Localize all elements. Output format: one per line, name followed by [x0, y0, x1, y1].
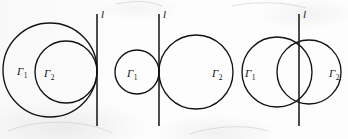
label-gamma-1-panel-2: Γ1: [127, 68, 137, 82]
label-gamma-2-panel-3: Γ2: [329, 68, 339, 82]
label-gamma-1-panel-1: Γ1: [17, 66, 27, 80]
geometry-figure: Γ1 Γ2 l Γ1 Γ2 l Γ1 Γ2 l: [0, 0, 348, 139]
panel-intersecting: [242, 14, 341, 126]
label-line-l-panel-3: l: [303, 9, 306, 20]
label-gamma-1-panel-3: Γ1: [245, 68, 255, 82]
label-gamma-2-panel-1: Γ2: [44, 68, 54, 82]
label-gamma-2-panel-2: Γ2: [212, 68, 222, 82]
label-line-l-panel-2: l: [163, 9, 166, 20]
label-line-l-panel-1: l: [101, 9, 104, 20]
